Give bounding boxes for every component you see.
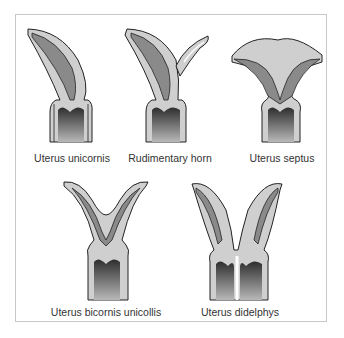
label-uterus-didelphys: Uterus didelphys xyxy=(201,306,279,318)
uterus-didelphys-illustration xyxy=(0,0,344,338)
panel-uterus-didelphys: Uterus didelphys xyxy=(0,0,344,338)
